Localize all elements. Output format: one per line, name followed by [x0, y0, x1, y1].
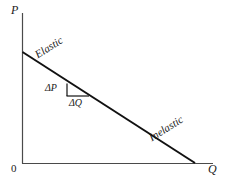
delta-q-label: ΔQ — [69, 98, 82, 108]
figure-canvas — [0, 0, 228, 187]
delta-p-label: ΔP — [45, 83, 57, 93]
demand-curve-figure: P Q 0 Elastic Inelastic ΔP ΔQ — [0, 0, 228, 187]
x-axis-label: Q — [208, 163, 217, 175]
origin-label: 0 — [11, 163, 17, 174]
demand-curve-line — [23, 52, 196, 163]
y-axis-label: P — [11, 4, 18, 16]
